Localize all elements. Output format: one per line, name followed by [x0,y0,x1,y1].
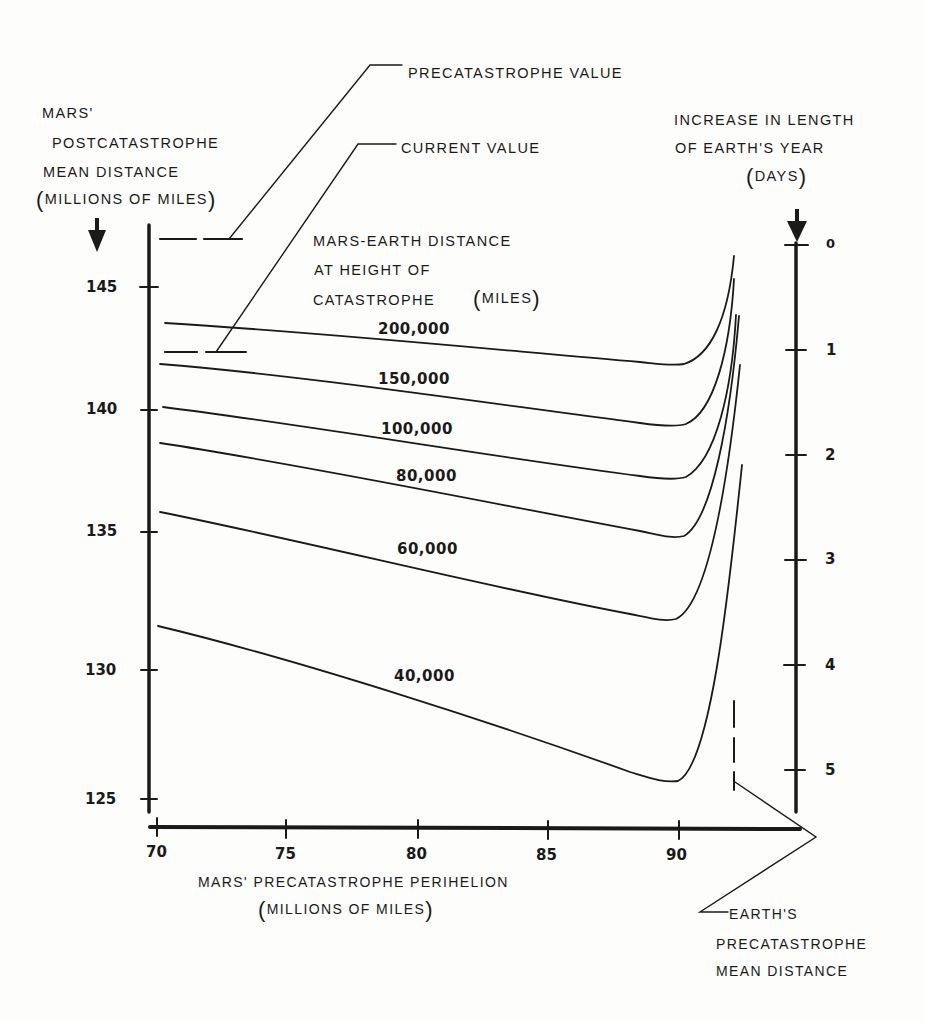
earth-note-line1: EARTH'S [729,906,798,922]
legend-title-line2: AT HEIGHT OF [314,262,431,278]
legend-title-line3: CATASTROPHE [313,292,435,308]
left-axis-title-line3: MEAN DISTANCE [43,164,179,180]
y-tick-130: 130 [85,661,116,679]
precatastrophe-value-label: PRECATASTROPHE VALUE [408,65,623,81]
earth-note-line3: MEAN DISTANCE [716,963,848,979]
right-axis-title-line2: OF EARTH'S YEAR [675,140,825,156]
curve-label-60000: 60,000 [397,540,458,558]
y-right-tick-3: 3 [825,550,835,568]
curve-60000 [160,365,740,620]
curve-label-40000: 40,000 [394,667,455,685]
curve-label-100000: 100,000 [381,420,453,438]
x-axis-title-line2: (MILLIONS OF MILES) [258,897,434,923]
x-tick-80: 80 [406,845,427,863]
y-tick-145: 145 [86,278,117,296]
earth-mean-distance-marker [700,701,816,912]
x-tick-75: 75 [275,845,296,863]
left-axis-title-line4: (MILLIONS OF MILES) [36,187,217,213]
legend-title-line1: MARS-EARTH DISTANCE [313,233,511,249]
x-tick-85: 85 [536,846,557,864]
left-axis-arrow-icon [88,230,106,252]
left-axis-title-line2: POSTCATASTROPHE [52,135,219,151]
x-axis [150,827,800,829]
curve-label-150000: 150,000 [378,370,450,388]
curve-label-200000: 200,000 [378,320,450,338]
y-tick-140: 140 [86,400,117,418]
right-axis-arrow-icon [787,221,807,242]
current-value-label: CURRENT VALUE [401,140,540,156]
y-right-tick-5: 5 [825,761,835,779]
curve-200000 [165,256,734,365]
earth-note-line2: PRECATASTROPHE [716,936,867,952]
curve-40000 [158,465,742,781]
y-right-tick-0: 0 [826,236,835,251]
left-axis-title-line1: MARS' [42,105,94,121]
x-tick-70: 70 [146,843,167,861]
x-tick-90: 90 [666,846,687,864]
x-axis-title-line1: MARS' PRECATASTROPHE PERIHELION [198,874,509,890]
curve-label-80000: 80,000 [396,467,457,485]
y-right-tick-4: 4 [825,656,835,674]
y-tick-135: 135 [86,522,117,540]
y-tick-125: 125 [85,790,116,808]
right-axis-title-line1: INCREASE IN LENGTH [674,112,855,128]
right-axis-title-line3: (DAYS) [746,164,807,190]
legend-title-line4: (MILES) [473,286,541,312]
y-right-tick-1: 1 [826,341,836,359]
y-right-tick-2: 2 [825,446,835,464]
